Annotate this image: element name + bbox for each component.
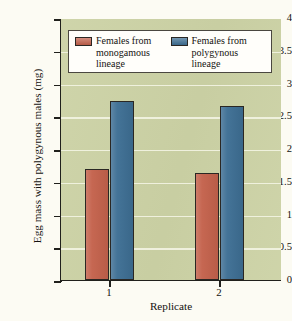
gridline [61, 117, 281, 118]
bar-monogamous-replicate-2 [195, 173, 219, 280]
bar-monogamous-replicate-1 [85, 169, 109, 280]
legend-label-monogamous: Females from monogamous lineage [96, 35, 151, 70]
y-axis-title: Egg mass with polygynous males (mg) [31, 31, 43, 281]
legend-label-polygynous-line2: polygynous [192, 47, 239, 58]
x-tick-label: 1 [89, 286, 129, 298]
legend-label-polygynous: Females from polygynous lineage [192, 35, 247, 70]
legend-label-polygynous-line3: lineage [192, 58, 221, 69]
gridline [61, 85, 281, 86]
legend-label-monogamous-line3: lineage [96, 58, 125, 69]
gridline [61, 150, 281, 151]
x-axis-title: Replicate [61, 300, 281, 312]
bar-polygynous-replicate-1 [110, 101, 134, 280]
bar-polygynous-replicate-2 [220, 106, 244, 280]
legend-entry-polygynous: Females from polygynous lineage [171, 35, 267, 68]
x-tick-label: 2 [199, 286, 239, 298]
legend-label-monogamous-line2: monogamous [96, 47, 150, 58]
legend-label-polygynous-line1: Females from [192, 35, 247, 46]
legend-label-monogamous-line1: Females from [96, 35, 151, 46]
legend-swatch-monogamous-icon [75, 37, 92, 46]
legend-entry-monogamous: Females from monogamous lineage [75, 35, 171, 68]
legend-swatch-polygynous-icon [171, 37, 188, 46]
bar-chart-figure: Egg mass with polygynous males (mg) 00.5… [0, 0, 292, 321]
chart-legend: Females from monogamous lineage Females … [68, 30, 272, 73]
